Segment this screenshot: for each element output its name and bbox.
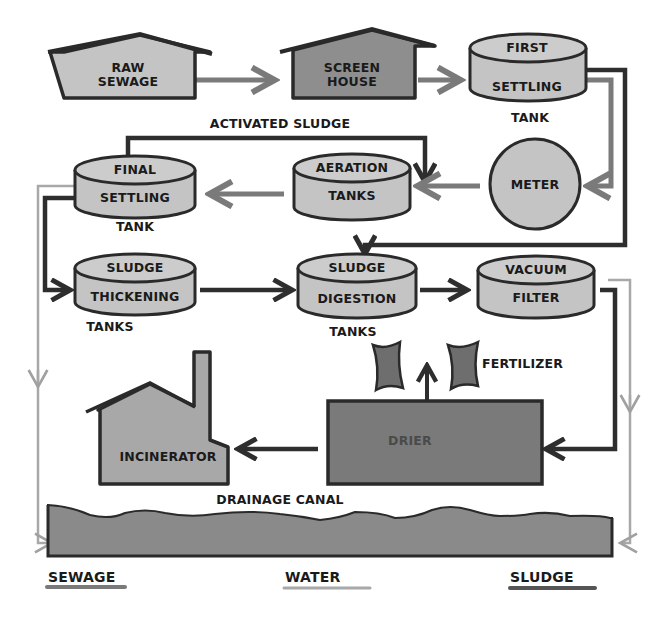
fertilizer-bag-icon	[448, 342, 478, 389]
aeration-label-1: AERATION	[316, 160, 388, 175]
node-incinerator: INCINERATOR	[86, 352, 228, 484]
sludge-thickening-label-1: SLUDGE	[106, 260, 163, 275]
sludge-digestion-label-1: SLUDGE	[328, 260, 385, 275]
vacuum-filter-label-1: VACUUM	[505, 262, 567, 277]
raw-sewage-label-2: SEWAGE	[98, 74, 158, 89]
node-drainage-canal: DRAINAGE CANAL	[48, 492, 612, 556]
node-aeration-tanks: AERATION TANKS	[294, 154, 410, 220]
node-sludge-digestion-tanks: SLUDGE DIGESTION TANKS	[298, 254, 416, 339]
raw-sewage-label-1: RAW	[111, 60, 144, 75]
node-vacuum-filter: VACUUM FILTER	[478, 256, 594, 318]
vacuum-filter-label-2: FILTER	[513, 290, 560, 305]
final-settling-label-1: FINAL	[114, 162, 156, 177]
meter-label: METER	[511, 177, 560, 192]
first-settling-label-2: SETTLING	[492, 79, 562, 94]
drier-label: DRIER	[388, 433, 432, 448]
node-first-settling-tank: FIRST SETTLING TANK	[470, 34, 586, 125]
sludge-digestion-label-2: DIGESTION	[318, 291, 397, 306]
drainage-canal-label: DRAINAGE CANAL	[216, 492, 343, 507]
node-final-settling-tank: FINAL SETTLING TANK	[75, 156, 195, 234]
legend-item-sludge: SLUDGE	[510, 569, 595, 588]
fertilizer-bag-icon	[373, 342, 403, 390]
incinerator-label: INCINERATOR	[119, 449, 216, 464]
screen-house-label-2: HOUSE	[327, 74, 377, 89]
node-raw-sewage: RAW SEWAGE	[48, 34, 212, 98]
node-drier: DRIER	[328, 401, 542, 484]
legend-sewage-label: SEWAGE	[48, 569, 116, 585]
first-settling-label-1: FIRST	[506, 40, 548, 55]
node-screen-house: SCREEN HOUSE	[280, 29, 435, 98]
final-settling-caption: TANK	[116, 219, 155, 234]
node-sludge-thickening-tanks: SLUDGE THICKENING TANKS	[75, 254, 195, 334]
activated-sludge-label: ACTIVATED SLUDGE	[210, 116, 350, 131]
node-meter: METER	[490, 139, 580, 229]
legend: SEWAGE WATER SLUDGE	[47, 569, 595, 588]
legend-item-water: WATER	[284, 569, 370, 588]
node-fertilizer: FERTILIZER	[373, 342, 563, 390]
aeration-label-2: TANKS	[328, 188, 375, 203]
screen-house-label-1: SCREEN	[324, 60, 381, 75]
sludge-thickening-label-2: THICKENING	[91, 289, 180, 304]
sludge-thickening-caption: TANKS	[86, 319, 133, 334]
legend-sludge-label: SLUDGE	[510, 569, 574, 585]
final-settling-label-2: SETTLING	[100, 190, 170, 205]
legend-water-label: WATER	[285, 569, 340, 585]
diagram-stage: RAW SEWAGE SCREEN HOUSE FIRST SETTLING T…	[0, 0, 661, 617]
first-settling-caption: TANK	[511, 110, 550, 125]
sludge-digestion-caption: TANKS	[329, 324, 376, 339]
legend-item-sewage: SEWAGE	[47, 569, 125, 587]
fertilizer-label: FERTILIZER	[482, 356, 563, 371]
